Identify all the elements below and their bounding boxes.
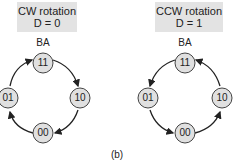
figure-caption: (b) bbox=[105, 149, 129, 160]
cw-state-10-label: 10 bbox=[70, 92, 90, 103]
ccw-state-10-label: 10 bbox=[212, 92, 232, 103]
ccw-state-01-label: 01 bbox=[138, 92, 158, 103]
cw-state-01-label: 01 bbox=[0, 92, 18, 103]
state-diagrams bbox=[0, 0, 241, 165]
cw-state-11-label: 11 bbox=[33, 57, 53, 68]
ccw-state-11-label: 11 bbox=[175, 57, 195, 68]
ccw-state-00-label: 00 bbox=[175, 127, 195, 138]
cw-state-00-label: 00 bbox=[33, 127, 53, 138]
